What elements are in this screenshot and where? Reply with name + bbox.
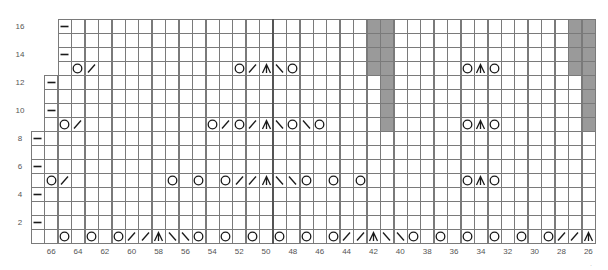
chart-cell (541, 229, 555, 244)
chart-cell (488, 19, 502, 34)
chart-cell (58, 201, 72, 216)
chart-cell (407, 145, 421, 160)
chart-cell (192, 75, 206, 90)
chart-cell (125, 33, 139, 48)
chart-cell (165, 145, 179, 160)
chart-cell (58, 215, 72, 230)
chart-cell (98, 229, 112, 244)
chart-cell (313, 89, 327, 104)
chart-cell (112, 33, 126, 48)
chart-cell (434, 187, 448, 202)
chart-cell (555, 159, 569, 174)
chart-cell (407, 229, 421, 244)
chart-cell (340, 47, 354, 62)
chart-cell (501, 159, 515, 174)
chart-cell (219, 103, 233, 118)
chart-cell (165, 19, 179, 34)
chart-cell (555, 61, 569, 76)
chart-cell (447, 145, 461, 160)
row-label: 4 (12, 190, 28, 199)
chart-cell (407, 89, 421, 104)
chart-cell (179, 89, 193, 104)
chart-cell (71, 89, 85, 104)
chart-cell (474, 229, 488, 244)
chart-cell (192, 187, 206, 202)
chart-cell (555, 201, 569, 216)
chart-cell (353, 33, 367, 48)
chart-cell (407, 75, 421, 90)
chart-cell (219, 117, 233, 132)
chart-cell (461, 117, 475, 132)
chart-cell (138, 131, 152, 146)
chart-cell (514, 117, 528, 132)
chart-cell (44, 201, 58, 216)
chart-cell (112, 47, 126, 62)
chart-cell (488, 47, 502, 62)
chart-cell (434, 33, 448, 48)
chart-cell (447, 103, 461, 118)
chart-cell (528, 229, 542, 244)
chart-cell (232, 19, 246, 34)
chart-cell (434, 89, 448, 104)
chart-cell (165, 229, 179, 244)
chart-cell (340, 201, 354, 216)
chart-cell (300, 117, 314, 132)
chart-cell (246, 229, 260, 244)
chart-cell (568, 201, 582, 216)
chart-cell (125, 47, 139, 62)
chart-cell (85, 19, 99, 34)
chart-cell (501, 215, 515, 230)
chart-cell (568, 47, 582, 62)
chart-cell (206, 229, 220, 244)
chart-cell (152, 201, 166, 216)
chart-cell (286, 47, 300, 62)
chart-cell (206, 89, 220, 104)
chart-cell (138, 89, 152, 104)
chart-cell (407, 215, 421, 230)
chart-cell (219, 201, 233, 216)
chart-cell (44, 131, 58, 146)
chart-cell (138, 173, 152, 188)
chart-cell (474, 159, 488, 174)
chart-cell (420, 19, 434, 34)
chart-cell (447, 215, 461, 230)
chart-cell (58, 103, 72, 118)
chart-cell (44, 173, 58, 188)
chart-cell (152, 159, 166, 174)
chart-cell (313, 75, 327, 90)
chart-cell (447, 19, 461, 34)
chart-cell (31, 215, 45, 230)
knitting-chart: 2468101214166664626058565452504846444240… (0, 0, 608, 270)
chart-cell (219, 19, 233, 34)
chart-cell (340, 103, 354, 118)
chart-cell (206, 215, 220, 230)
chart-cell (246, 173, 260, 188)
chart-cell (219, 89, 233, 104)
chart-cell (474, 187, 488, 202)
chart-cell (555, 173, 569, 188)
chart-cell (340, 89, 354, 104)
chart-cell (434, 75, 448, 90)
chart-cell (555, 145, 569, 160)
chart-cell (85, 159, 99, 174)
chart-cell (394, 61, 408, 76)
chart-cell (273, 145, 287, 160)
chart-cell (380, 145, 394, 160)
chart-cell (246, 201, 260, 216)
chart-cell (165, 61, 179, 76)
chart-cell (340, 215, 354, 230)
chart-cell (420, 75, 434, 90)
chart-cell (206, 145, 220, 160)
chart-cell (582, 173, 596, 188)
chart-cell (367, 173, 381, 188)
chart-cell (219, 33, 233, 48)
chart-cell (514, 159, 528, 174)
chart-cell (367, 229, 381, 244)
chart-cell (461, 75, 475, 90)
chart-cell (514, 145, 528, 160)
chart-cell (58, 117, 72, 132)
chart-cell (71, 61, 85, 76)
chart-cell (313, 187, 327, 202)
stitch-label: 52 (231, 247, 247, 256)
chart-cell (528, 173, 542, 188)
